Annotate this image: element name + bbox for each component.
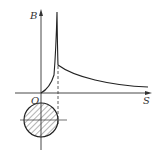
origin-label: O [31, 96, 39, 106]
conductor-cross-section [20, 103, 67, 137]
x-axis-label: S [143, 96, 150, 106]
field-curve [41, 12, 148, 93]
y-axis-arrow-icon [39, 9, 43, 16]
diagram-svg [0, 0, 163, 154]
diagram-canvas: B O S [0, 0, 163, 154]
y-axis-label: B [30, 11, 37, 21]
